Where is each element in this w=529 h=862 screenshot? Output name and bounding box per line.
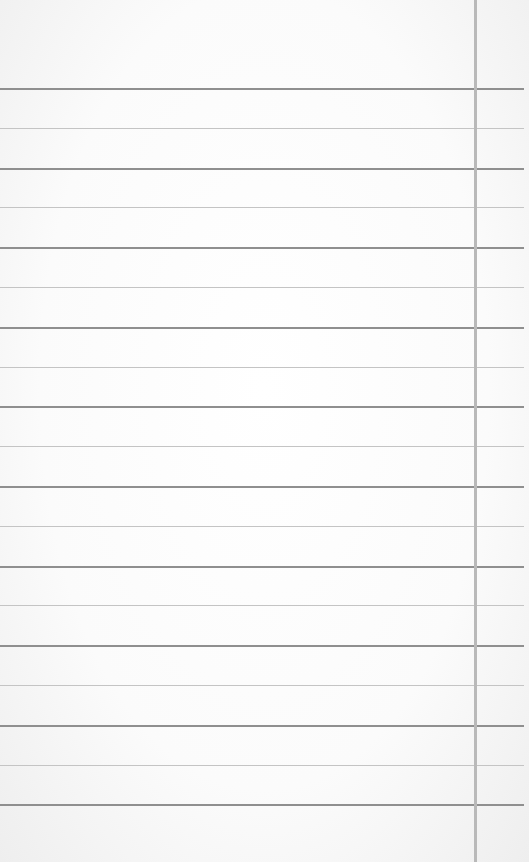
vertical-margin-line: [474, 0, 477, 862]
ruled-line: [0, 168, 524, 170]
ruled-line: [0, 327, 524, 329]
ruled-line: [0, 367, 524, 368]
ruled-line: [0, 207, 524, 208]
ruled-line: [0, 128, 524, 129]
ruled-line: [0, 526, 524, 527]
ruled-line: [0, 566, 524, 568]
ruled-line: [0, 685, 524, 686]
ruled-line: [0, 88, 524, 90]
ruled-line: [0, 287, 524, 288]
ruled-line: [0, 446, 524, 447]
lined-paper: [0, 0, 529, 862]
ruled-line: [0, 486, 524, 488]
ruled-line: [0, 765, 524, 766]
ruled-line: [0, 725, 524, 727]
ruled-line: [0, 605, 524, 606]
ruled-line: [0, 645, 524, 647]
ruled-line: [0, 804, 524, 806]
ruled-line: [0, 406, 524, 408]
ruled-line: [0, 247, 524, 249]
